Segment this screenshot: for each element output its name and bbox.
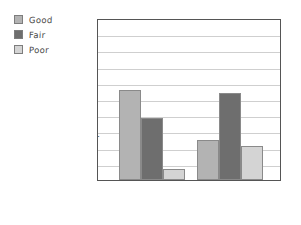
y-tick-mark [97, 36, 98, 37]
bar-sports-good [197, 140, 219, 181]
legend-label-good: Good [29, 15, 53, 25]
bar-regular-poor [163, 169, 185, 180]
bar-chart-figure: Good Fair Poor 00.10.20.30.40.50.60.70.8… [0, 0, 301, 225]
bar-regular-good [119, 90, 141, 180]
legend-label-poor: Poor [29, 45, 49, 55]
legend-label-fair: Fair [29, 30, 46, 40]
legend-swatch-good [14, 15, 23, 24]
y-axis-title: Proportion of Students [97, 40, 99, 160]
bar-sports-poor [241, 146, 263, 180]
legend-item-good: Good [14, 12, 76, 27]
y-tick-mark [97, 20, 98, 21]
bars-group [98, 20, 280, 180]
plot-area: 00.10.20.30.40.50.60.70.80.91 RegularSpo… [97, 19, 281, 181]
chart-legend: Good Fair Poor [14, 12, 76, 57]
y-tick-mark [97, 165, 98, 166]
legend-item-fair: Fair [14, 27, 76, 42]
legend-swatch-poor [14, 45, 23, 54]
legend-swatch-fair [14, 30, 23, 39]
bar-sports-fair [219, 93, 241, 180]
bar-regular-fair [141, 118, 163, 180]
legend-item-poor: Poor [14, 42, 76, 57]
